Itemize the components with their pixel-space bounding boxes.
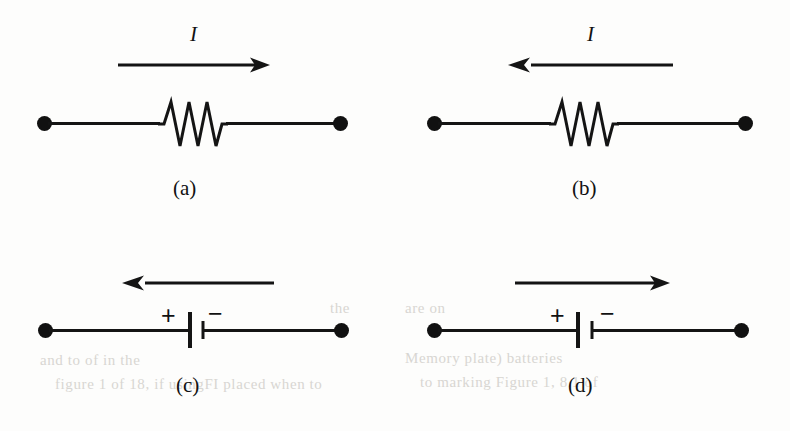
wire-left-a: [48, 122, 160, 125]
wire-right-a: [226, 122, 341, 125]
polarity-plus-d: +: [550, 303, 565, 328]
wire-left-b: [438, 122, 551, 125]
wire-right-c: [203, 329, 341, 332]
panel-d: + − (d): [395, 215, 790, 430]
current-label-a: I: [190, 22, 197, 47]
wire-right-d: [592, 329, 740, 332]
panel-caption-d: (d): [568, 373, 593, 398]
panel-caption-b: (b): [572, 176, 597, 201]
panel-caption-a: (a): [173, 176, 196, 201]
current-label-b: I: [587, 22, 594, 47]
terminal-dot-right-c: [334, 323, 349, 338]
panel-c: + − (c): [0, 215, 395, 430]
panel-a: I (a): [0, 0, 395, 215]
wire-left-d: [438, 329, 577, 332]
polarity-minus-d: −: [600, 301, 615, 326]
current-arrow-left-b: [508, 55, 673, 77]
terminal-dot-right-a: [333, 116, 348, 131]
panel-b: I (b): [395, 0, 790, 215]
current-arrow-left-c: [122, 273, 274, 295]
current-arrow-right-a: [118, 55, 270, 77]
polarity-plus-c: +: [161, 303, 176, 328]
panel-caption-c: (c): [176, 373, 199, 398]
terminal-dot-right-b: [738, 116, 753, 131]
resistor-zigzag-b: [549, 98, 619, 150]
terminal-dot-right-d: [734, 323, 749, 338]
resistor-zigzag-a: [158, 98, 228, 150]
circuit-elements-figure: and to of in the Memory plate) batteries…: [0, 0, 790, 431]
current-arrow-right-d: [515, 273, 670, 295]
wire-right-b: [617, 122, 750, 125]
wire-left-c: [49, 329, 189, 332]
